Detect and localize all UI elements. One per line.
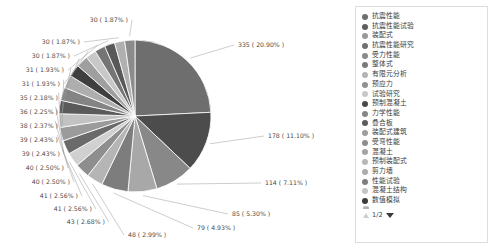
pie-leader-line <box>114 193 194 228</box>
legend-item-label: 数值模拟 <box>372 196 400 206</box>
pie-chart-svg: 335 ( 20.90% )178 ( 11.10% )114 ( 7.11% … <box>0 0 352 249</box>
legend-item[interactable]: 预制装配式 <box>362 157 483 167</box>
pie-slice-label: 36 ( 2.25% ) <box>20 108 58 115</box>
legend-item-label: 预制混凝土 <box>372 99 407 109</box>
pie-leader-line <box>210 136 264 144</box>
legend-item-label: 剪力墙 <box>372 167 393 177</box>
legend-item[interactable]: 装配式 <box>362 31 483 41</box>
legend-item[interactable]: 试验研究 <box>362 90 483 100</box>
pie-slice-label: 31 ( 1.93% ) <box>22 80 60 87</box>
legend-item[interactable]: 性能试验 <box>362 177 483 187</box>
chart-area: 335 ( 20.90% )178 ( 11.10% )114 ( 7.11% … <box>0 0 352 249</box>
pie-slice-label: 38 ( 2.37% ) <box>20 122 58 129</box>
legend-item[interactable]: 抗震性能研究 <box>362 41 483 51</box>
legend-item-label: 混凝土 <box>372 148 393 158</box>
legend-item-label: 试验研究 <box>372 90 400 100</box>
legend-swatch-icon <box>362 120 368 126</box>
legend-item-label: 叠合板 <box>372 119 393 129</box>
pie-slice-label: 335 ( 20.90% ) <box>238 41 284 48</box>
legend-item[interactable]: 数值模拟 <box>362 196 483 206</box>
pie-slice-label: 39 ( 2.43% ) <box>20 136 58 143</box>
legend-item-label: 混凝土结构 <box>372 186 407 196</box>
legend-item[interactable]: 力学性能 <box>362 109 483 119</box>
legend-swatch-icon <box>362 130 368 136</box>
pie-leader-line <box>177 183 261 184</box>
legend-item[interactable]: 受力性能 <box>362 51 483 61</box>
legend-item-label: 装配式建筑 <box>372 128 407 138</box>
legend-swatch-icon <box>362 82 368 88</box>
legend-panel: 抗震性能抗震性能试验装配式抗震性能研究受力性能整体式有限元分析预应力试验研究预制… <box>355 6 488 243</box>
legend-swatch-icon <box>362 188 368 194</box>
legend-item-clipped <box>362 206 483 209</box>
pie-chart-widget: 335 ( 20.90% )178 ( 11.10% )114 ( 7.11% … <box>0 0 496 249</box>
legend-swatch-icon <box>362 62 368 68</box>
legend-item[interactable]: 预应力 <box>362 80 483 90</box>
legend-item[interactable]: 装配式建筑 <box>362 128 483 138</box>
legend-swatch-icon <box>362 140 368 146</box>
legend-swatch-icon <box>362 43 368 49</box>
legend-item-label: 抗震性能试验 <box>372 22 414 32</box>
pie-leader-line <box>84 38 119 42</box>
pie-slice-label: 30 ( 1.87% ) <box>90 16 128 23</box>
pie-slice-label: 41 ( 2.56% ) <box>54 205 92 212</box>
pie-slice-label: 79 ( 4.93% ) <box>197 224 235 231</box>
pie-slice-label: 48 ( 2.99% ) <box>128 231 166 238</box>
pager-up-icon[interactable] <box>363 213 369 218</box>
legend-item[interactable]: 抗震性能 <box>362 12 483 22</box>
pie-slice-label: 40 ( 2.50% ) <box>32 178 70 185</box>
legend-item-label: 力学性能 <box>372 109 400 119</box>
legend-swatch-icon <box>362 24 368 30</box>
legend-item[interactable]: 剪力墙 <box>362 167 483 177</box>
legend-item[interactable]: 叠合板 <box>362 119 483 129</box>
pie-slice-label: 40 ( 2.50% ) <box>26 164 64 171</box>
legend-item[interactable]: 抗震性能试验 <box>362 22 483 32</box>
legend-swatch-icon <box>362 111 368 117</box>
legend-item[interactable]: 混凝土结构 <box>362 186 483 196</box>
pie-slice-label: 85 ( 5.30% ) <box>232 210 270 217</box>
pie-leader-line <box>130 20 132 36</box>
legend-item-label: 整体式 <box>372 60 393 70</box>
legend-item[interactable]: 预制混凝土 <box>362 99 483 109</box>
legend-swatch-icon <box>362 72 368 78</box>
legend-item-label: 性能试验 <box>372 177 400 187</box>
legend-item-label: 受弯性能 <box>372 138 400 148</box>
legend-item-label: 受力性能 <box>372 51 400 61</box>
legend-item-label: 预制装配式 <box>372 157 407 167</box>
legend-swatch-icon <box>362 14 368 20</box>
legend-swatch-icon <box>362 179 368 185</box>
legend-page-indicator: 1/2 <box>372 211 383 219</box>
pie-slice-label: 178 ( 11.10% ) <box>268 132 314 139</box>
pie-slice-label: 41 ( 2.56% ) <box>40 192 78 199</box>
legend-item[interactable]: 整体式 <box>362 60 483 70</box>
legend-swatch-icon <box>362 169 368 175</box>
legend-item[interactable]: 有限元分析 <box>362 70 483 80</box>
pie-leader-line <box>190 45 234 58</box>
legend-item-label: 预应力 <box>372 80 393 90</box>
pie-leader-line <box>92 184 124 235</box>
legend-swatch-icon <box>362 101 368 107</box>
legend-pager: 1/2 <box>362 210 483 221</box>
legend-item-label: 装配式 <box>372 31 393 41</box>
pie-slice-label: 35 ( 2.18% ) <box>20 94 58 101</box>
pie-slice[interactable] <box>135 40 211 116</box>
legend-swatch-icon <box>363 206 369 209</box>
pie-slice-label: 30 ( 1.87% ) <box>32 52 70 59</box>
legend-swatch-icon <box>362 149 368 155</box>
pager-down-icon[interactable] <box>386 213 394 218</box>
pie-slice-label: 43 ( 2.68% ) <box>67 218 105 225</box>
legend-item[interactable]: 受弯性能 <box>362 138 483 148</box>
pie-slice-label: 31 ( 1.93% ) <box>26 66 64 73</box>
legend-list: 抗震性能抗震性能试验装配式抗震性能研究受力性能整体式有限元分析预应力试验研究预制… <box>362 12 483 209</box>
pie-slice-label: 39 ( 2.43% ) <box>22 150 60 157</box>
pie-leader-line <box>143 196 228 214</box>
legend-item-label: 抗震性能 <box>372 12 400 22</box>
legend-swatch-icon <box>362 53 368 59</box>
legend-swatch-icon <box>362 91 368 97</box>
pie-slice-label: 114 ( 7.11% ) <box>265 179 307 186</box>
legend-item-label: 抗震性能研究 <box>372 41 414 51</box>
pie-slice-label: 30 ( 1.87% ) <box>42 38 80 45</box>
legend-swatch-icon <box>362 198 368 204</box>
legend-swatch-icon <box>362 33 368 39</box>
legend-item[interactable]: 混凝土 <box>362 148 483 158</box>
legend-swatch-icon <box>362 159 368 165</box>
